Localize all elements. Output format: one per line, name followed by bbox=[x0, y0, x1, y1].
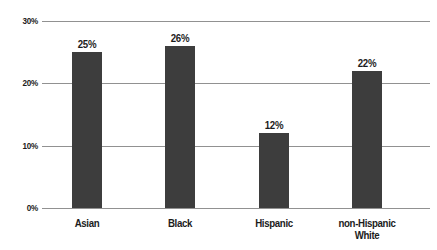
category-label: Black bbox=[140, 217, 219, 229]
ytick-label: 0% bbox=[7, 203, 38, 213]
category-label: Asian bbox=[47, 217, 126, 229]
bar-value-label: 25% bbox=[65, 38, 109, 50]
category-label: Hispanic bbox=[234, 217, 313, 229]
category-label: non-Hispanic White bbox=[327, 217, 406, 241]
bar-value-label: 12% bbox=[252, 119, 296, 131]
bar-hispanic bbox=[259, 133, 289, 208]
bar-value-label: 22% bbox=[345, 57, 389, 69]
plot-area: 0%10%20%30%25%Asian26%Black12%Hispanic22… bbox=[0, 0, 437, 250]
bar-value-label: 26% bbox=[158, 32, 202, 44]
gridline-0% bbox=[42, 208, 430, 209]
bar-non-hispanic-white bbox=[352, 71, 382, 208]
ytick-label: 30% bbox=[7, 16, 38, 26]
ytick-label: 20% bbox=[7, 78, 38, 88]
bar-asian bbox=[72, 52, 102, 208]
bar-chart: 0%10%20%30%25%Asian26%Black12%Hispanic22… bbox=[0, 0, 437, 250]
ytick-label: 10% bbox=[7, 141, 38, 151]
bar-black bbox=[165, 46, 195, 208]
gridline-30% bbox=[42, 21, 430, 22]
